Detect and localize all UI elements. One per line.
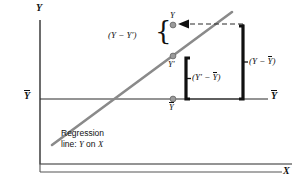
predicted-y-point-label: Y′ [168, 60, 175, 69]
y-axis-label: Y [36, 3, 42, 13]
residual-curly-brace: { [155, 18, 172, 44]
mean-y-point-label-text: Y [169, 103, 174, 112]
x-axis-label: X [283, 166, 290, 176]
explained-deviation-bracket [186, 58, 191, 99]
explained-deviation-label: (Y′ − Y) [192, 73, 221, 82]
caption-line-2-mid: on [84, 139, 98, 149]
mean-label-left: Y [24, 91, 30, 101]
caption-line-2: line: Y on X [61, 139, 104, 150]
figure-canvas [0, 0, 292, 185]
projection-arrowhead [178, 19, 189, 28]
total-deviation-label: (Y − Y) [249, 57, 276, 66]
caption-line-2-x: X [98, 139, 103, 149]
regression-decomposition-figure: Y X Y Y Y Y′ Y (Y − Y′) { (Y′ − Y) (Y − … [0, 0, 292, 185]
mean-label-right-text: Y [271, 91, 277, 101]
mean-label-left-text: Y [24, 91, 30, 101]
mean-y-point-label: Y [169, 103, 174, 112]
residual-annotation-label: (Y − Y′) [108, 31, 137, 40]
regression-line-caption: Regression line: Y on X [61, 128, 104, 149]
mean-label-right: Y [271, 91, 277, 101]
total-deviation-bracket [239, 26, 248, 99]
caption-line-1: Regression [61, 128, 104, 139]
caption-line-2-prefix: line: [61, 139, 79, 149]
